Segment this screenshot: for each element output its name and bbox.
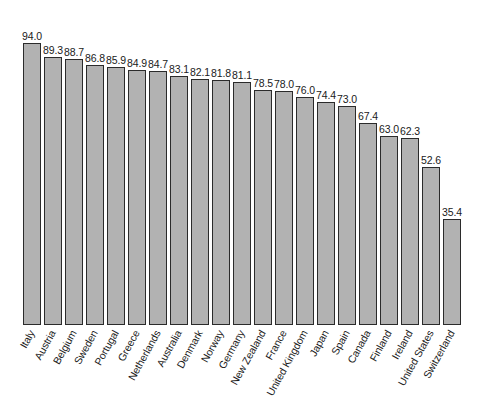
- bar-value-label: 74.4: [316, 90, 336, 101]
- bar: [212, 80, 230, 325]
- bar-value-label: 86.8: [85, 53, 105, 64]
- bar: [107, 67, 125, 325]
- bar: [338, 106, 356, 325]
- bar: [422, 167, 440, 325]
- bar-value-label: 78.0: [274, 79, 294, 90]
- bar-value-label: 81.1: [232, 70, 252, 81]
- bar-value-label: 62.3: [400, 126, 420, 137]
- bar: [359, 123, 377, 325]
- bar-value-label: 63.0: [379, 124, 399, 135]
- plot-area: 94.089.388.786.885.984.984.783.182.181.8…: [23, 10, 463, 325]
- bar-value-label: 84.9: [127, 58, 147, 69]
- bar-value-label: 82.1: [190, 67, 210, 78]
- bar-value-label: 85.9: [106, 55, 126, 66]
- bar: [44, 57, 62, 325]
- bar: [254, 90, 272, 326]
- bar: [23, 43, 41, 325]
- x-axis-label-slot: Switzerland: [443, 329, 461, 414]
- bar: [65, 59, 83, 325]
- bar-value-label: 35.4: [442, 207, 462, 218]
- bar-value-label: 81.8: [211, 68, 231, 79]
- bar-value-label: 88.7: [64, 47, 84, 58]
- bar: [233, 82, 251, 325]
- bar: [380, 136, 398, 325]
- bar: [149, 71, 167, 325]
- bar-value-label: 89.3: [43, 45, 63, 56]
- x-axis-label-text: Italy: [18, 328, 37, 350]
- bar-value-label: 76.0: [295, 85, 315, 96]
- bar: [401, 138, 419, 325]
- bar-value-label: 84.7: [148, 59, 168, 70]
- bar-value-label: 67.4: [358, 111, 378, 122]
- x-axis-tick-labels: ItalyAustriaBelgiumSwedenPortugalGreeceN…: [23, 329, 463, 414]
- bar-value-label: 52.6: [421, 155, 441, 166]
- bar-value-label: 78.5: [253, 78, 273, 89]
- bar-value-label: 83.1: [169, 64, 189, 75]
- bar: [86, 65, 104, 325]
- bar: [128, 70, 146, 325]
- bar-chart: 94.089.388.786.885.984.984.783.182.181.8…: [0, 0, 479, 414]
- bar: [296, 97, 314, 325]
- bar-value-label: 73.0: [337, 94, 357, 105]
- bar-value-label: 94.0: [22, 31, 42, 42]
